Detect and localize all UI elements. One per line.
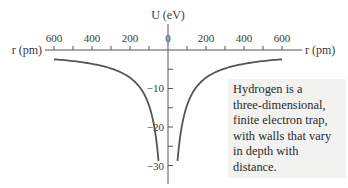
y-tick-labels: −10 −20 −30 bbox=[147, 82, 165, 172]
x-tick-label: 0 bbox=[165, 32, 171, 44]
y-axis-title: U (eV) bbox=[151, 8, 185, 22]
x-tick-label: 200 bbox=[122, 32, 139, 44]
x-tick-label: 400 bbox=[236, 32, 253, 44]
annotation-text: Hydrogen is a three-dimensional, finite … bbox=[233, 82, 346, 176]
x-tick-label: 600 bbox=[274, 32, 291, 44]
annotation-line: Hydrogen is a bbox=[233, 82, 303, 96]
annotation-line: finite electron trap, bbox=[233, 113, 328, 127]
annotation-line: with walls that vary bbox=[233, 129, 331, 143]
annotation-line: three-dimensional, bbox=[233, 98, 326, 112]
x-tick-label: 200 bbox=[198, 32, 215, 44]
x-axis-title-left: r (pm) bbox=[12, 43, 42, 57]
y-tick-label: −30 bbox=[147, 160, 165, 172]
x-tick-label: 600 bbox=[46, 32, 63, 44]
annotation-box: Hydrogen is a three-dimensional, finite … bbox=[228, 79, 346, 178]
x-tick-labels: 600 400 200 0 200 400 600 bbox=[46, 32, 291, 44]
y-ticks bbox=[168, 69, 173, 165]
y-tick-label: −10 bbox=[147, 82, 165, 94]
annotation-line: distance. bbox=[233, 160, 277, 174]
potential-curve-left bbox=[54, 59, 159, 161]
x-tick-label: 400 bbox=[84, 32, 101, 44]
annotation-line: in depth with bbox=[233, 144, 298, 158]
x-axis-title-right: r (pm) bbox=[305, 43, 335, 57]
